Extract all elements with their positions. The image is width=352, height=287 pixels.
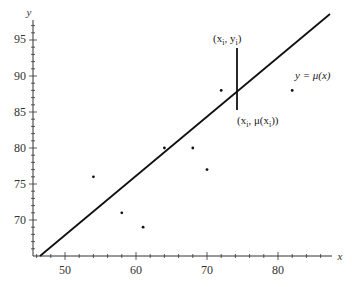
- data-point: [120, 211, 123, 214]
- x-tick-50: 50: [59, 263, 71, 277]
- y-axis-label: y: [26, 6, 32, 18]
- x-tick-80: 80: [272, 263, 284, 277]
- x-tick-60: 60: [130, 263, 142, 277]
- y-tick-70: 70: [14, 213, 26, 227]
- y-axis: y 95 90 85 80 75 70: [14, 6, 37, 256]
- x-tick-70: 70: [201, 263, 213, 277]
- data-point: [291, 89, 294, 92]
- data-point: [206, 168, 209, 171]
- y-tick-75: 75: [14, 177, 26, 191]
- x-axis-label: x: [337, 250, 343, 262]
- data-point: [92, 175, 95, 178]
- point-label-xi-mu: (xi, μ(xi)): [237, 114, 279, 129]
- data-point: [191, 147, 194, 150]
- regression-line: [40, 14, 330, 256]
- y-tick-80: 80: [14, 141, 26, 155]
- data-point: [142, 226, 145, 229]
- data-point: [220, 89, 223, 92]
- x-axis: x 50 60 70 80: [33, 250, 343, 277]
- data-points: [92, 89, 294, 229]
- y-tick-95: 95: [14, 32, 26, 46]
- line-label: y = μ(x): [294, 69, 331, 82]
- scatter-chart: y 95 90 85 80 75 70 x 50 60 70 80 (xi, y…: [0, 0, 352, 287]
- data-point: [163, 147, 166, 150]
- point-label-xi-yi: (xi, yi): [213, 32, 242, 47]
- y-tick-90: 90: [14, 69, 26, 83]
- y-tick-85: 85: [14, 105, 26, 119]
